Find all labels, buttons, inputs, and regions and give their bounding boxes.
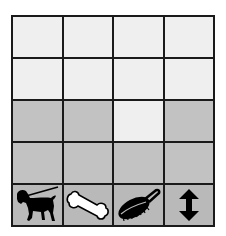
walk-dog-cell[interactable] [13, 185, 62, 225]
brush-icon [115, 187, 161, 223]
grid-cell-r4-c4[interactable] [165, 143, 214, 183]
selection-grid [11, 15, 215, 227]
grid-cell-r1-c3[interactable] [114, 17, 163, 57]
resize-cell[interactable] [165, 185, 214, 225]
grooming-cell[interactable] [114, 185, 163, 225]
grid-cell-r2-c2[interactable] [64, 59, 113, 99]
grid-cell-r1-c2[interactable] [64, 17, 113, 57]
dog-on-leash-icon [14, 186, 60, 224]
grid-cell-r1-c1[interactable] [13, 17, 62, 57]
grid-cell-r4-c3[interactable] [114, 143, 163, 183]
grid-cell-r2-c3[interactable] [114, 59, 163, 99]
grid-cell-r2-c4[interactable] [165, 59, 214, 99]
grid-cell-r3-c2[interactable] [64, 101, 113, 141]
bone-icon [65, 188, 111, 222]
grid-cell-r3-c4[interactable] [165, 101, 214, 141]
grid-cell-r1-c4[interactable] [165, 17, 214, 57]
grid-cell-r4-c1[interactable] [13, 143, 62, 183]
grid-cell-r3-c1[interactable] [13, 101, 62, 141]
grid-cell-r2-c1[interactable] [13, 59, 62, 99]
treat-cell[interactable] [64, 185, 113, 225]
up-down-arrow-icon [178, 189, 200, 221]
grid-cell-r4-c2[interactable] [64, 143, 113, 183]
grid-cell-r3-c3[interactable] [114, 101, 163, 141]
